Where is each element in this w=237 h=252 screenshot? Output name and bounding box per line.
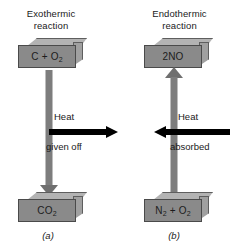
panel-a-heading: Exothermic reaction bbox=[6, 8, 96, 32]
box-label-co2: CO2 bbox=[37, 205, 57, 217]
heat-arrow-head-right bbox=[106, 126, 118, 138]
box-product-2no: 2NO bbox=[144, 38, 214, 70]
box-front-face: C + O2 bbox=[18, 45, 76, 68]
box-reactant-c-o2: C + O2 bbox=[18, 38, 88, 70]
heat-label-bottom-a: given off bbox=[46, 141, 82, 152]
heat-label-bottom-b: absorbed bbox=[170, 141, 210, 152]
box-product-co2: CO2 bbox=[18, 192, 88, 224]
heat-arrow-head-left bbox=[154, 126, 166, 138]
heat-arrow-shaft bbox=[49, 129, 107, 135]
box-front-face: N2 + O2 bbox=[144, 199, 202, 222]
box-front-face: CO2 bbox=[18, 199, 76, 222]
heat-label-top-a: Heat bbox=[54, 111, 74, 122]
box-front-face: 2NO bbox=[144, 45, 202, 68]
box-label-c-o2: C + O2 bbox=[31, 51, 63, 63]
heat-arrow-shaft bbox=[165, 129, 230, 135]
heat-label-top-b: Heat bbox=[178, 111, 198, 122]
box-label-2no: 2NO bbox=[162, 51, 183, 62]
heat-arrow-absorbed bbox=[154, 126, 230, 138]
panel-a-caption: (a) bbox=[18, 230, 78, 241]
panel-b-heading: Endothermic reaction bbox=[132, 8, 227, 32]
box-reactant-n2-o2: N2 + O2 bbox=[144, 192, 214, 224]
panel-b-caption: (b) bbox=[144, 230, 204, 241]
box-label-n2-o2: N2 + O2 bbox=[155, 205, 191, 217]
reaction-energy-diagram: Exothermic reaction C + O2 Heat given of… bbox=[0, 0, 237, 252]
heat-arrow-given-off bbox=[49, 126, 118, 138]
